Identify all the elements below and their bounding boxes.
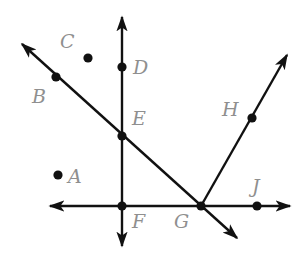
label-c: C: [60, 30, 75, 52]
point-h: [247, 113, 256, 122]
labels-layer: ABCDEFGHJ: [31, 30, 261, 232]
geometry-diagram: ABCDEFGHJ: [0, 0, 306, 262]
label-j: J: [248, 175, 261, 197]
point-j: [252, 201, 261, 210]
point-f: [117, 201, 126, 210]
label-a: A: [66, 165, 82, 187]
point-g: [196, 201, 205, 210]
point-d: [117, 62, 126, 71]
label-f: F: [131, 210, 146, 232]
point-a: [53, 170, 62, 179]
point-c: [83, 53, 92, 62]
label-h: H: [221, 98, 239, 120]
points-layer: [51, 53, 261, 210]
label-b: B: [31, 85, 46, 107]
diagram-svg: ABCDEFGHJ: [0, 0, 306, 262]
point-b: [51, 72, 60, 81]
ray-GH: [201, 55, 287, 206]
label-d: D: [132, 56, 148, 78]
label-e: E: [131, 107, 146, 129]
point-e: [117, 131, 126, 140]
label-g: G: [174, 210, 189, 232]
